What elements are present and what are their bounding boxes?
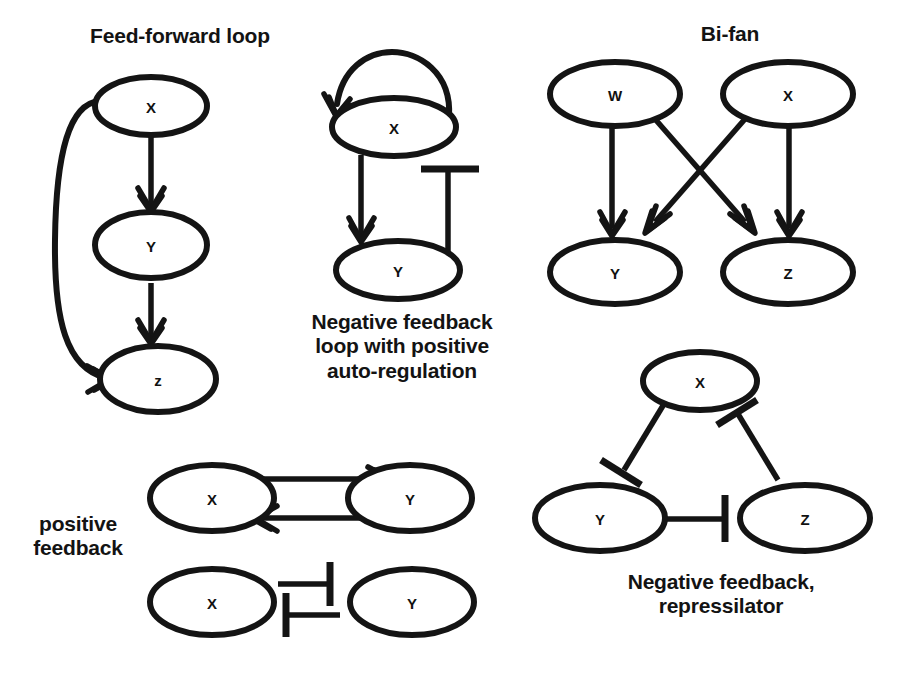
node-ffl-y[interactable]: Y [95, 212, 207, 278]
edge-bifan-x-to-z [777, 124, 802, 236]
node-label: Z [783, 265, 792, 282]
node-ffl-z[interactable]: z [100, 346, 216, 412]
motif-positive-feedback-activation-pair: X Y [150, 465, 472, 531]
motif-title-bi-fan: Bi-fan [640, 22, 820, 46]
node-label: X [783, 87, 793, 104]
node-nfb-y[interactable]: Y [336, 241, 460, 299]
node-label: X [695, 374, 705, 391]
node-label: Y [610, 265, 620, 282]
node-rep-y[interactable]: Y [535, 485, 665, 551]
node-pfa-y[interactable]: Y [348, 465, 472, 531]
node-label: Y [405, 491, 415, 508]
motif-bi-fan: W X Y Z [550, 62, 853, 304]
node-bifan-x[interactable]: X [723, 62, 853, 126]
node-pfi-y[interactable]: Y [350, 569, 474, 635]
node-bifan-y[interactable]: Y [550, 240, 680, 304]
node-label: X [207, 491, 217, 508]
node-rep-x[interactable]: X [643, 352, 757, 410]
node-label: X [207, 595, 217, 612]
node-label: Z [800, 511, 809, 528]
edge-rep-y-to-z [665, 495, 725, 542]
node-label: Y [146, 238, 156, 255]
network-motifs-figure: X Y z [0, 0, 902, 675]
motif-positive-feedback-inhibition-pair: X Y [150, 562, 474, 637]
node-bifan-w[interactable]: W [550, 62, 680, 126]
node-label: W [608, 87, 623, 104]
motif-title-negative-feedback-auto-regulation: Negative feedback loop with positive aut… [268, 310, 536, 383]
node-label: z [154, 372, 162, 389]
edge-ffl-x-to-y [138, 134, 164, 212]
motif-title-positive-feedback: positive feedback [8, 512, 148, 561]
edge-ffl-y-to-z [138, 283, 164, 344]
motif-repressilator: X Y Z [535, 352, 870, 551]
edge-rep-x-to-y [601, 404, 664, 485]
node-label: Y [595, 511, 605, 528]
motif-title-repressilator: Negative feedback, repressilator [556, 570, 886, 619]
node-label: Y [407, 595, 417, 612]
motif-feed-forward-loop: X Y z [55, 77, 216, 412]
node-bifan-z[interactable]: Z [723, 240, 853, 304]
edge-rep-z-to-x [717, 400, 778, 480]
node-label: Y [393, 263, 403, 280]
node-ffl-x[interactable]: X [95, 77, 207, 135]
edge-nfb-x-to-y [349, 155, 374, 242]
motif-negative-feedback-auto-regulation: X Y [324, 52, 479, 299]
node-pfi-x[interactable]: X [150, 569, 274, 635]
edge-bifan-w-to-y [600, 124, 625, 236]
node-pfa-x[interactable]: X [150, 465, 274, 531]
motif-title-feed-forward-loop: Feed-forward loop [40, 24, 320, 48]
node-nfb-x[interactable]: X [332, 98, 456, 156]
node-rep-z[interactable]: Z [740, 485, 870, 551]
node-label: X [389, 120, 399, 137]
node-label: X [146, 99, 156, 116]
